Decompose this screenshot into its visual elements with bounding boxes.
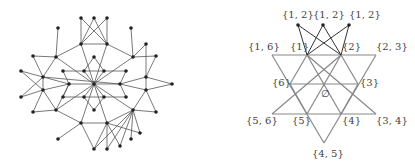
graph-node [131, 55, 135, 59]
graph-edge [94, 123, 107, 149]
graph-node [79, 42, 83, 46]
graph-node [118, 82, 122, 86]
graph-node [82, 69, 86, 73]
set-label: {3} [360, 77, 379, 88]
graph-edge [133, 110, 156, 112]
graph-node [144, 75, 148, 79]
graph-node [92, 147, 96, 151]
graph-edge [94, 18, 107, 44]
graph-node [61, 95, 65, 99]
set-label: {4, 5} [312, 148, 344, 159]
graph-edge [146, 56, 156, 77]
graph-edge [94, 44, 107, 84]
graph-node [31, 110, 35, 114]
graph-edge [94, 84, 104, 97]
graph-edge [94, 84, 107, 123]
set-label: {5, 6} [246, 115, 278, 126]
graph-node [170, 82, 174, 86]
graph-node [92, 82, 96, 86]
diagram-edge [323, 25, 341, 55]
graph-node [56, 137, 60, 141]
graph-node [118, 144, 122, 148]
graph-node [19, 69, 23, 73]
graph-node [54, 55, 58, 59]
graph-node [144, 88, 148, 92]
graph-node [129, 137, 133, 141]
graph-edge [107, 44, 133, 57]
graph-edge [56, 28, 58, 57]
graph-edge [56, 44, 81, 57]
graph-edge [133, 110, 140, 133]
graph-node [154, 110, 158, 114]
graph-node [31, 54, 35, 58]
graph-node [41, 75, 45, 79]
graph-node [79, 121, 83, 125]
diagram-node [296, 23, 300, 27]
graph-edge [120, 71, 126, 84]
set-label: {2, 3} [376, 41, 408, 52]
graph-edge [81, 84, 94, 123]
graph-edge [43, 57, 56, 77]
graph-edge [133, 90, 146, 110]
right-star-diagram: {1, 2}{1, 2}{1, 2}{1, 6}{1}{2}{2, 3}{6}∅… [246, 9, 408, 159]
set-label: {1, 2} [349, 9, 381, 20]
graph-node [61, 69, 65, 73]
graph-edge [146, 77, 172, 84]
set-label: {4} [342, 115, 361, 126]
graph-edge [43, 90, 56, 110]
graph-node [92, 108, 96, 112]
graph-node [105, 16, 109, 20]
set-label: {1, 6} [248, 41, 280, 52]
graph-node [54, 108, 58, 112]
graph-node [92, 16, 96, 20]
graph-node [105, 121, 109, 125]
diagram-edge [341, 55, 358, 84]
diagram-node [321, 23, 325, 27]
graph-edge [33, 90, 43, 112]
graph-node [131, 108, 135, 112]
graph-edge [33, 56, 43, 77]
graph-node [41, 88, 45, 92]
graph-edge [133, 44, 146, 57]
diagram-edge [290, 84, 307, 114]
graph-edge [120, 84, 126, 97]
graph-node [124, 95, 128, 99]
graph-edge [58, 123, 81, 139]
set-label: {6} [272, 77, 291, 88]
graph-edge [133, 56, 156, 57]
graph-node [144, 42, 148, 46]
set-label: {3, 4} [376, 115, 408, 126]
left-graph [19, 16, 174, 151]
graph-edge [33, 110, 56, 112]
graph-node [138, 131, 142, 135]
set-label: {2} [342, 41, 361, 52]
graph-node [82, 95, 86, 99]
graph-edge [120, 77, 146, 84]
set-label: ∅ [321, 88, 330, 99]
graph-edge [33, 56, 56, 57]
graph-node [67, 82, 71, 86]
graph-node [105, 42, 109, 46]
graph-node [154, 54, 158, 58]
graph-edge [146, 90, 156, 112]
graph-edge [63, 71, 69, 84]
graph-edge [131, 28, 133, 57]
graph-edge [120, 84, 146, 90]
set-label: {5} [292, 115, 311, 126]
set-label: {1, 2} [282, 9, 314, 20]
graph-edge [56, 110, 81, 123]
set-label: {1, 2} [313, 9, 345, 20]
diagram-edge [341, 84, 358, 114]
graph-edge [81, 44, 94, 84]
graph-edge [81, 18, 94, 44]
graph-edge [43, 84, 69, 90]
diagram-node [347, 23, 351, 27]
graph-node [102, 95, 106, 99]
figure-canvas: {1, 2}{1, 2}{1, 2}{1, 6}{1}{2}{2, 3}{6}∅… [0, 0, 415, 168]
graph-node [129, 26, 133, 30]
graph-node [124, 69, 128, 73]
graph-node [79, 16, 83, 20]
graph-node [105, 147, 109, 151]
graph-edge [81, 123, 94, 149]
set-label: {1} [290, 41, 309, 52]
